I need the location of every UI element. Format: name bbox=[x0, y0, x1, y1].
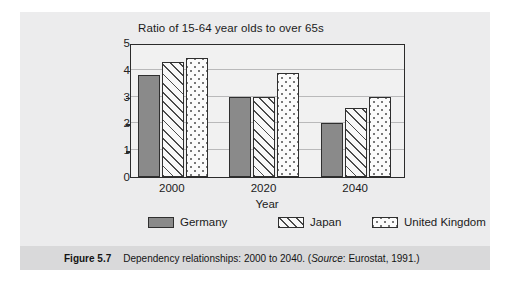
legend-item-germany[interactable]: Germany bbox=[148, 216, 227, 228]
figure-caption: Figure 5.7Dependency relationships: 2000… bbox=[20, 253, 420, 264]
x-axis-tick-label: 2000 bbox=[159, 182, 185, 194]
bar-japan-2000 bbox=[162, 62, 184, 177]
bar-group bbox=[131, 45, 223, 177]
bar-uk-2000 bbox=[186, 58, 208, 177]
y-axis-tick-mark bbox=[126, 151, 130, 152]
y-axis: 543210 bbox=[112, 36, 130, 186]
chart-legend: GermanyJapanUnited Kingdom bbox=[130, 216, 420, 232]
bar-group bbox=[223, 45, 315, 177]
legend-label: Japan bbox=[310, 216, 341, 228]
bar-germany-2020 bbox=[229, 97, 251, 177]
bar-chart: Ratio of 15-64 year olds to over 65s 543… bbox=[20, 12, 490, 246]
figure-caption-label: Figure 5.7 bbox=[64, 253, 111, 264]
y-axis-tick-mark bbox=[126, 98, 130, 99]
figure-container: Ratio of 15-64 year olds to over 65s 543… bbox=[0, 0, 513, 284]
figure-caption-body: Dependency relationships: 2000 to 2040. … bbox=[123, 253, 311, 264]
bar-germany-2000 bbox=[138, 75, 160, 177]
figure-caption-band: Figure 5.7Dependency relationships: 2000… bbox=[20, 246, 490, 270]
legend-item-uk[interactable]: United Kingdom bbox=[372, 216, 486, 228]
x-axis-tick-label: 2040 bbox=[342, 182, 368, 194]
legend-label: United Kingdom bbox=[404, 216, 486, 228]
bar-germany-2040 bbox=[321, 123, 343, 177]
y-axis-tick-mark bbox=[126, 124, 130, 125]
bar-uk-2020 bbox=[277, 73, 299, 177]
legend-swatch-uk bbox=[372, 217, 398, 228]
plot-area bbox=[130, 44, 405, 178]
figure-caption-source-value: : Eurostat, 1991.) bbox=[343, 253, 420, 264]
figure-caption-source-label: Source bbox=[311, 253, 343, 264]
legend-swatch-japan bbox=[278, 217, 304, 228]
chart-title: Ratio of 15-64 year olds to over 65s bbox=[138, 22, 324, 34]
bar-uk-2040 bbox=[369, 97, 391, 177]
x-axis-tick-label: 2020 bbox=[251, 182, 277, 194]
legend-swatch-germany bbox=[148, 217, 174, 228]
y-axis-tick-mark bbox=[126, 71, 130, 72]
bar-japan-2020 bbox=[253, 97, 275, 177]
bar-japan-2040 bbox=[345, 108, 367, 177]
bar-group bbox=[314, 45, 406, 177]
legend-label: Germany bbox=[180, 216, 227, 228]
x-axis-title: Year bbox=[255, 198, 278, 210]
legend-item-japan[interactable]: Japan bbox=[278, 216, 341, 228]
plot-inner bbox=[131, 45, 404, 177]
